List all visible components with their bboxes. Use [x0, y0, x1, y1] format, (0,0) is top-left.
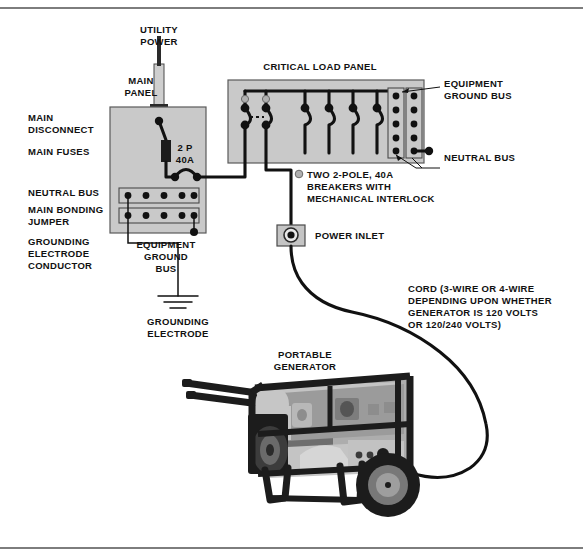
main-disconnect-label-line2: DISCONNECT [28, 124, 94, 135]
generator-switch-2 [384, 402, 395, 413]
main-fuses-label: MAIN FUSES [28, 146, 90, 157]
interlock-note-bullet-icon [295, 170, 303, 178]
grounding-electrode-conductor-label-line2: ELECTRODE [28, 248, 89, 259]
main-disconnect-label-line1: MAIN [28, 112, 53, 123]
interlock-note-line2: BREAKERS WITH [307, 181, 391, 192]
cord-note-line1: CORD (3-WIRE OR 4-WIRE [408, 283, 534, 294]
grounding-electrode-conductor-label-line1: GROUNDING [28, 236, 90, 247]
cord-note-line4: OR 120/240 VOLTS) [408, 319, 501, 330]
main-panel-label-line1: MAIN [128, 75, 153, 86]
neutral-bus-right-label: NEUTRAL BUS [444, 152, 515, 163]
critical-load-panel-label: CRITICAL LOAD PANEL [263, 61, 377, 72]
interlock-note-line3: MECHANICAL INTERLOCK [307, 193, 435, 204]
main-breaker-rating-line1: 2 P [177, 142, 193, 153]
utility-power-label-line2: POWER [140, 36, 177, 47]
generator-wheel [356, 453, 420, 517]
portable-generator-label-line1: PORTABLE [278, 349, 332, 360]
cord-note-line3: GENERATOR IS 120 VOLTS [408, 307, 538, 318]
power-inlet-device [277, 225, 305, 246]
interlock-marker-icon-1 [241, 95, 248, 102]
critical-panel-neutral-bus [406, 88, 422, 158]
generator-foot-rail [268, 498, 360, 500]
main-bonding-jumper-label-line2: JUMPER [28, 216, 69, 227]
interlock-marker-icon-2 [262, 95, 269, 102]
critical-panel-equipment-ground-bus [388, 88, 404, 158]
grounding-electrode-label-line2: ELECTRODE [147, 328, 208, 339]
main-breaker-rating-line2: 40A [176, 154, 194, 165]
main-bonding-jumper-label-line1: MAIN BONDING [28, 204, 103, 215]
power-inlet-label: POWER INLET [315, 230, 384, 241]
equipment-ground-bus-right-label-line1: EQUIPMENT [444, 78, 503, 89]
cord-note-line2: DEPENDING UPON WHETHER [408, 295, 552, 306]
grounding-electrode-label-line1: GROUNDING [147, 316, 209, 327]
main-equipment-ground-bus-label-line2: GROUND [144, 251, 188, 262]
utility-power-label-line1: UTILITY [140, 24, 178, 35]
bonding-jumper-terminal [190, 228, 198, 236]
main-equipment-ground-bus-label-line1: EQUIPMENT [136, 239, 195, 250]
main-equipment-ground-bus-label-line3: BUS [156, 263, 177, 274]
equipment-ground-bus-right-label-line2: GROUND BUS [444, 90, 512, 101]
main-fuse-block [161, 140, 171, 162]
wiring-diagram: UTILITY POWER MAIN PANEL 2 P 40A [0, 0, 583, 556]
grounding-electrode-conductor-label-line3: CONDUCTOR [28, 260, 92, 271]
generator-switch-1 [368, 404, 379, 415]
generator-receptacle-1 [356, 452, 363, 459]
main-panel-neutral-bus [119, 188, 199, 203]
portable-generator-label-line2: GENERATOR [274, 361, 337, 372]
neutral-bus-tap-terminal [425, 147, 433, 155]
interlock-note-line1: TWO 2-POLE, 40A [307, 169, 393, 180]
main-panel-label-line2: PANEL [125, 87, 158, 98]
neutral-bus-left-label: NEUTRAL BUS [28, 187, 99, 198]
main-panel-equipment-ground-bus [119, 208, 199, 223]
